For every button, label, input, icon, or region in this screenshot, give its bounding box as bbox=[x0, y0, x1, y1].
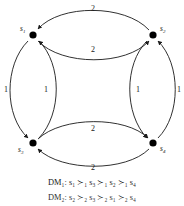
directed-graph-svg: s1 s2 s3 s4 2 2 1 1 1 1 2 2 bbox=[0, 0, 184, 176]
dm2-preference-line: DM₂: s₂ ≻₂ s₃ ≻₂ s₁ ≻₂ s₄ bbox=[0, 190, 184, 205]
edge-weight-bottom-inner: 2 bbox=[91, 124, 95, 133]
edge-weight-top-inner: 2 bbox=[91, 45, 95, 54]
node-label-s3: s3 bbox=[18, 145, 24, 155]
edge-weight-right-outer: 1 bbox=[177, 85, 181, 94]
node-s3[interactable] bbox=[29, 139, 36, 146]
node-label-s2: s2 bbox=[160, 24, 166, 34]
node-s2[interactable] bbox=[149, 31, 156, 38]
node-label-s1: s1 bbox=[20, 24, 25, 34]
node-s1[interactable] bbox=[29, 31, 36, 38]
edge-weight-left-outer: 1 bbox=[4, 85, 8, 94]
edge-s4-to-s2-outer bbox=[158, 41, 175, 138]
dm1-preference-line: DM₁: s₁ ≻₁ s₃ ≻₁ s₂ ≻₁ s₄ bbox=[0, 175, 184, 190]
node-s4[interactable] bbox=[149, 139, 156, 146]
edge-weight-top-outer: 2 bbox=[91, 4, 95, 13]
graph-area: s1 s2 s3 s4 2 2 1 1 1 1 2 2 bbox=[0, 0, 184, 176]
caption-area: DM₁: s₁ ≻₁ s₃ ≻₁ s₂ ≻₁ s₄ DM₂: s₂ ≻₂ s₃ … bbox=[0, 175, 184, 206]
edge-s2-to-s1-outer bbox=[38, 10, 149, 30]
node-label-s4: s4 bbox=[160, 144, 166, 154]
edge-s1-to-s3-outer bbox=[10, 41, 28, 138]
edge-weight-left-inner: 1 bbox=[44, 85, 48, 94]
edge-weight-bottom-outer: 2 bbox=[91, 163, 95, 172]
figure-container: s1 s2 s3 s4 2 2 1 1 1 1 2 2 DM₁: s₁ ≻₁ s… bbox=[0, 0, 184, 206]
edge-weight-right-inner: 1 bbox=[136, 85, 140, 94]
